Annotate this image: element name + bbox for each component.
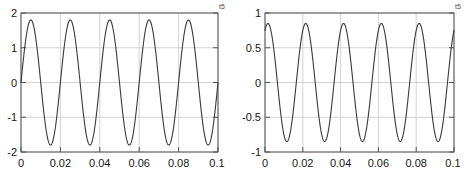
right-plot-ytick-0: 1 bbox=[255, 7, 261, 19]
right-plot-xtick-4: 0.08 bbox=[405, 157, 426, 169]
left-plot-xtick-5: 0.1 bbox=[209, 157, 224, 169]
right-plot-xtick-2: 0.04 bbox=[330, 157, 351, 169]
left-plot-panel: 2 1 0 -1 -2 0 0.02 0.04 0.06 0.08 0.1 t5 bbox=[0, 0, 236, 180]
right-plot-xtick-1: 0.02 bbox=[292, 157, 313, 169]
right-plot-panel: 1 0.5 0 -0.5 -1 0 0.02 0.04 0.06 0.08 0.… bbox=[236, 0, 472, 180]
left-plot-ytick-3: -1 bbox=[7, 111, 17, 123]
right-plot-ytick-4: -1 bbox=[251, 146, 261, 158]
figure-container: 2 1 0 -1 -2 0 0.02 0.04 0.06 0.08 0.1 t5 bbox=[0, 0, 473, 180]
right-plot-ytick-2: 0 bbox=[255, 77, 261, 89]
left-plot-corner-mark: t5 bbox=[219, 3, 225, 10]
right-plot-xtick-0: 0 bbox=[262, 157, 268, 169]
left-plot-ytick-2: 0 bbox=[11, 77, 17, 89]
left-plot-xtick-3: 0.06 bbox=[128, 157, 149, 169]
right-plot-xtick-3: 0.06 bbox=[368, 157, 389, 169]
left-plot-xtick-2: 0.04 bbox=[89, 157, 110, 169]
right-plot-svg: 1 0.5 0 -0.5 -1 0 0.02 0.04 0.06 0.08 0.… bbox=[236, 0, 472, 180]
left-plot-ytick-0: 2 bbox=[11, 7, 17, 19]
left-plot-xtick-1: 0.02 bbox=[50, 157, 71, 169]
left-plot-svg: 2 1 0 -1 -2 0 0.02 0.04 0.06 0.08 0.1 t5 bbox=[0, 0, 236, 180]
left-plot-xtick-0: 0 bbox=[18, 157, 24, 169]
left-plot-ytick-4: -2 bbox=[7, 146, 17, 158]
right-plot-ytick-1: 0.5 bbox=[246, 42, 261, 54]
left-plot-ytick-1: 1 bbox=[11, 42, 17, 54]
right-plot-xtick-5: 0.1 bbox=[445, 157, 460, 169]
right-plot-corner-mark: t5 bbox=[455, 3, 461, 10]
left-plot-xtick-4: 0.08 bbox=[168, 157, 189, 169]
right-plot-ytick-3: -0.5 bbox=[242, 111, 261, 123]
